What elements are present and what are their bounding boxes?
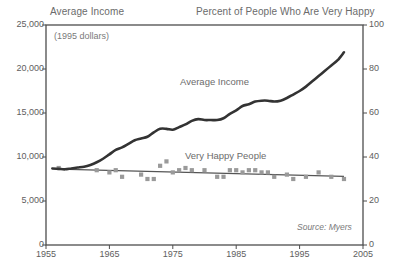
left-tick-label: 5,000	[21, 195, 44, 205]
left-tick-label: 15,000	[16, 107, 44, 117]
income-line	[52, 52, 344, 169]
right-tick-label: 0	[369, 239, 374, 249]
x-tick-label: 1995	[290, 249, 310, 259]
right-tick-label: 100	[369, 19, 384, 29]
left-tick-label: 25,000	[16, 19, 44, 29]
tick-marks	[42, 25, 367, 249]
x-tick-label: 1985	[226, 249, 246, 259]
right-tick-label: 80	[369, 63, 379, 73]
x-tick-label: 1975	[163, 249, 183, 259]
right-tick-label: 40	[369, 151, 379, 161]
happy-trend-line	[59, 169, 344, 176]
left-tick-label: 0	[39, 239, 44, 249]
plot-area	[0, 0, 411, 276]
right-tick-label: 60	[369, 107, 379, 117]
x-tick-label: 2005	[353, 249, 373, 259]
right-tick-label: 20	[369, 195, 379, 205]
left-tick-label: 20,000	[16, 63, 44, 73]
x-tick-label: 1955	[36, 249, 56, 259]
chart-container: Average Income Percent of People Who Are…	[0, 0, 411, 276]
x-tick-label: 1965	[99, 249, 119, 259]
plot-frame	[46, 25, 363, 245]
left-tick-label: 10,000	[16, 151, 44, 161]
